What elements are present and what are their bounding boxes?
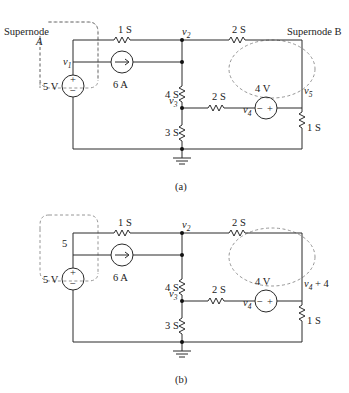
node-v2: v2 xyxy=(182,26,191,40)
ground-icon xyxy=(173,351,191,357)
resistor-1s-right-label: 1 S xyxy=(307,315,321,326)
resistor-3s-label: 3 S xyxy=(165,320,179,331)
svg-text:−: − xyxy=(70,85,76,96)
supernode-a-letter: A xyxy=(35,36,43,47)
resistor-1s-right-label: 1 S xyxy=(307,122,321,133)
node-left-value: 5 xyxy=(62,238,67,249)
node-v4: v4 xyxy=(243,297,252,311)
resistor-2s-mid-label: 2 S xyxy=(212,91,226,102)
svg-text:−: − xyxy=(70,278,76,289)
caption-b: (b) xyxy=(175,374,188,386)
svg-text:+: + xyxy=(267,103,273,114)
resistor-2s-top-label: 2 S xyxy=(232,217,246,228)
current-6a-label: 6 A xyxy=(113,79,128,90)
circuit-b: 1 S 2 S 4 S 2 S 3 S 1 S 5 V 6 A 4 V + − … xyxy=(40,215,330,386)
resistor-1s-label: 1 S xyxy=(118,217,132,228)
svg-text:−: − xyxy=(257,296,263,307)
node-v4: v4 xyxy=(243,104,252,118)
node-v4-plus-4: v4 + 4 xyxy=(304,278,330,292)
resistor-1s-label: 1 S xyxy=(118,24,132,35)
circuit-a: Supernode A Supernode B 1 S 2 S 4 S 2 S … xyxy=(4,22,342,193)
supernode-b-label: Supernode B xyxy=(287,26,342,37)
svg-text:+: + xyxy=(70,267,76,278)
resistor-3s-label: 3 S xyxy=(165,127,179,138)
voltage-5v-label: 5 V xyxy=(43,81,59,92)
resistor-2s-mid-label: 2 S xyxy=(212,284,226,295)
supernode-a-label: Supernode xyxy=(4,26,49,37)
caption-a: (a) xyxy=(175,181,187,193)
voltage-4v-label: 4 V xyxy=(255,276,271,287)
ground-icon xyxy=(173,158,191,164)
resistor-2s-top-label: 2 S xyxy=(232,24,246,35)
svg-text:+: + xyxy=(267,296,273,307)
current-6a-label: 6 A xyxy=(113,272,128,283)
node-v2: v2 xyxy=(182,219,191,233)
svg-text:+: + xyxy=(70,74,76,85)
svg-text:−: − xyxy=(257,103,263,114)
node-v1: v1 xyxy=(63,56,71,70)
current-arrow-icon xyxy=(115,252,129,258)
node-v5: v5 xyxy=(304,85,313,99)
current-arrow-icon xyxy=(115,59,129,65)
voltage-5v-label: 5 V xyxy=(43,274,59,285)
voltage-4v-label: 4 V xyxy=(255,83,271,94)
